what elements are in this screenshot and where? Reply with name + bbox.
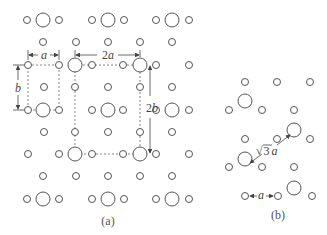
dimension-2b: 2b: [146, 66, 158, 153]
label-b: b: [15, 81, 21, 95]
panel-a: a b 2a 2b (a): [13, 13, 193, 228]
dimension-a: a: [28, 48, 59, 62]
caption-a: (a): [101, 214, 114, 228]
label-2a: 2a: [102, 48, 114, 62]
label-2b: 2b: [146, 101, 158, 115]
lattice-diagram: a b 2a 2b (a): [0, 0, 327, 235]
dimension-sqrt3a: √3a: [250, 135, 290, 163]
dimension-2a: 2a: [75, 48, 140, 62]
panel-b: √3a a (b): [226, 79, 316, 223]
dimension-a-b: a: [250, 188, 273, 202]
label-a: a: [41, 48, 47, 62]
label-sqrt3a: √3a: [256, 144, 278, 158]
dimension-b: b: [13, 65, 24, 110]
caption-b: (b): [271, 208, 285, 222]
label-a-b: a: [258, 188, 264, 202]
